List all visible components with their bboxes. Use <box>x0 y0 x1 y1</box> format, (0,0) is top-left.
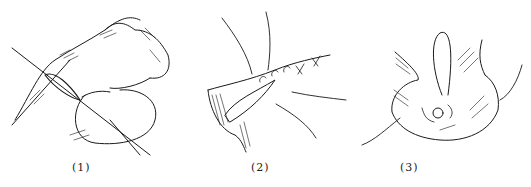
panel-2-drawing <box>180 0 360 160</box>
panel-1: (1) <box>0 0 180 187</box>
panel-2: (2) <box>180 0 360 187</box>
panel-3: (3) <box>360 0 531 187</box>
surgical-illustration-figure: (1) <box>0 0 531 187</box>
panel-1-caption: (1) <box>72 161 91 174</box>
panel-3-caption: (3) <box>400 161 419 174</box>
panel-2-caption: (2) <box>251 161 270 174</box>
panel-3-drawing <box>360 0 531 160</box>
panel-1-drawing <box>0 0 180 160</box>
